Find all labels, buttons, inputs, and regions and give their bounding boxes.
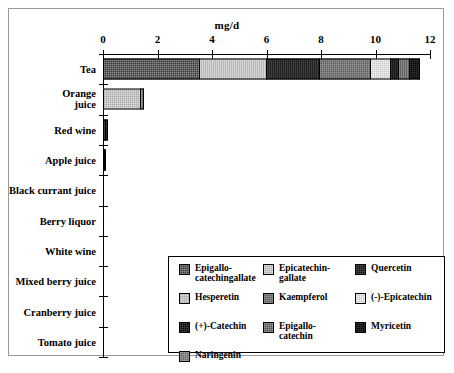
legend-label: Naringenin — [195, 350, 241, 360]
category-label: Tomato juice — [38, 336, 96, 347]
x-tick-label: 10 — [370, 33, 381, 45]
y-tick — [99, 84, 108, 85]
category-label: Tea — [80, 64, 96, 75]
legend-label: Epigallo- catechingallate — [195, 263, 256, 283]
x-tick — [376, 50, 377, 59]
x-tick-label: 6 — [264, 33, 270, 45]
y-tick — [99, 115, 108, 116]
bar-segment-ecg — [199, 59, 267, 80]
x-tick — [430, 50, 431, 59]
legend-label: Myricetin — [371, 321, 411, 331]
x-tick — [212, 50, 213, 59]
bar-2 — [103, 119, 109, 140]
y-tick — [99, 327, 108, 328]
legend-swatch-icon — [263, 322, 274, 333]
bar-segment-epicatechin — [370, 59, 390, 80]
legend-column-1: Epigallo- catechingallateHesperetin(+)-C… — [179, 263, 256, 373]
legend-item-catechin[interactable]: (+)-Catechin — [179, 321, 256, 345]
category-label: Cranberry juice — [23, 306, 96, 317]
legend-label: (-)-Epicatechin — [371, 292, 432, 302]
category-label: Apple juice — [45, 155, 96, 166]
legend-swatch-icon — [179, 293, 190, 304]
y-tick — [99, 357, 108, 358]
legend-item-epicatechin[interactable]: (-)-Epicatechin — [355, 292, 432, 316]
legend-label: Quercetin — [371, 263, 411, 273]
bar-3 — [103, 150, 105, 171]
x-tick — [158, 50, 159, 59]
bar-segment-hesperetin — [103, 89, 141, 110]
bar-segment-quercetin — [266, 59, 321, 80]
legend-swatch-icon — [355, 264, 366, 275]
x-tick-label: 0 — [100, 33, 106, 45]
bar-segment-catechin — [104, 150, 106, 171]
y-tick — [99, 236, 108, 237]
legend-item-egc[interactable]: Epigallo- catechin — [263, 321, 330, 345]
category-label: Orangejuice — [62, 88, 96, 110]
legend-item-ecg[interactable]: Epicatechin- gallate — [263, 263, 330, 287]
x-tick — [267, 50, 268, 59]
legend-item-egcg[interactable]: Epigallo- catechingallate — [179, 263, 256, 287]
legend-item-quercetin[interactable]: Quercetin — [355, 263, 432, 287]
legend-swatch-icon — [263, 293, 274, 304]
legend-label: Epicatechin- gallate — [279, 263, 330, 283]
y-tick — [99, 266, 108, 267]
bar-0 — [103, 59, 427, 80]
chart-title: mg/d — [9, 19, 445, 31]
legend-column-2: Epicatechin- gallateKaempferolEpigallo- … — [263, 263, 330, 350]
bar-segment-myricetin — [409, 59, 420, 80]
category-label: White wine — [45, 245, 96, 256]
legend-item-hesperetin[interactable]: Hesperetin — [179, 292, 256, 316]
category-label: Red wine — [54, 124, 96, 135]
legend-item-myricetin[interactable]: Myricetin — [355, 321, 432, 345]
legend-column-3: Quercetin(-)-EpicatechinMyricetin — [355, 263, 432, 350]
legend-swatch-icon — [179, 351, 190, 362]
x-tick-label: 2 — [155, 33, 161, 45]
bar-segment-catechin — [105, 119, 108, 140]
legend-label: (+)-Catechin — [195, 321, 246, 331]
legend-swatch-icon — [179, 322, 190, 333]
legend-item-naringenin[interactable]: Naringenin — [179, 350, 256, 373]
legend: Epigallo- catechingallateHesperetin(+)-C… — [168, 256, 445, 353]
legend-swatch-icon — [355, 293, 366, 304]
category-label: Mixed berry juice — [16, 276, 96, 287]
legend-label: Hesperetin — [195, 292, 239, 302]
x-tick — [321, 50, 322, 59]
bar-segment-kaempferol — [319, 59, 371, 80]
legend-swatch-icon — [263, 264, 274, 275]
x-tick-label: 12 — [425, 33, 436, 45]
y-tick — [99, 296, 108, 297]
x-tick-label: 4 — [209, 33, 215, 45]
legend-item-kaempferol[interactable]: Kaempferol — [263, 292, 330, 316]
legend-swatch-icon — [179, 264, 190, 275]
y-tick — [99, 206, 108, 207]
category-label: Berry liquor — [40, 215, 96, 226]
figure-frame: mg/d 024681012 TeaOrangejuiceRed wineApp… — [8, 8, 444, 356]
bar-segment-naringenin — [140, 89, 145, 110]
legend-swatch-icon — [355, 322, 366, 333]
category-label: Black currant juice — [9, 185, 96, 196]
legend-label: Kaempferol — [279, 292, 327, 302]
y-tick — [99, 54, 108, 55]
y-tick — [99, 175, 108, 176]
y-tick — [99, 145, 108, 146]
bar-segment-egcg — [103, 59, 200, 80]
x-tick-label: 8 — [318, 33, 324, 45]
bar-1 — [103, 89, 145, 110]
legend-label: Epigallo- catechin — [279, 321, 316, 341]
